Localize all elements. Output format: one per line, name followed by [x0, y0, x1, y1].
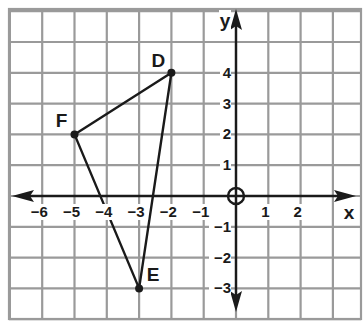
- y-axis-label: y: [220, 10, 231, 31]
- y-tick-label: 3: [223, 95, 231, 112]
- triangle-DEF: [75, 73, 172, 289]
- y-tick-label: 2: [223, 125, 231, 142]
- vertex-dot-D: [167, 69, 175, 77]
- y-tick-label: −2: [214, 249, 231, 266]
- x-tick-label: −2: [160, 203, 177, 220]
- y-tick-label: 4: [223, 64, 232, 81]
- x-tick-label: −1: [192, 203, 209, 220]
- vertex-dot-F: [71, 130, 79, 138]
- x-axis-label: x: [344, 202, 355, 223]
- coordinate-plane: −6−5−4−3−2−1124321−1−2−3xy DEF: [0, 0, 364, 324]
- grid-lines: [9, 9, 361, 319]
- y-tick-label: 1: [223, 156, 231, 173]
- grid-border: [9, 9, 361, 319]
- y-tick-label: −3: [214, 279, 231, 296]
- triangle-def: [75, 73, 172, 289]
- x-tick-label: 2: [293, 203, 301, 220]
- vertex-label-F: F: [56, 110, 68, 131]
- x-tick-label: 1: [261, 203, 269, 220]
- x-tick-label: −3: [128, 203, 145, 220]
- x-tick-label: −6: [31, 203, 48, 220]
- vertex-dot-E: [135, 284, 143, 292]
- tick-labels: −6−5−4−3−2−1124321−1−2−3xy: [27, 10, 355, 296]
- vertex-label-E: E: [147, 264, 160, 285]
- axes: [12, 9, 356, 312]
- x-tick-label: −4: [95, 203, 113, 220]
- vertex-label-D: D: [152, 50, 166, 71]
- y-tick-label: −1: [214, 218, 231, 235]
- x-tick-label: −5: [63, 203, 80, 220]
